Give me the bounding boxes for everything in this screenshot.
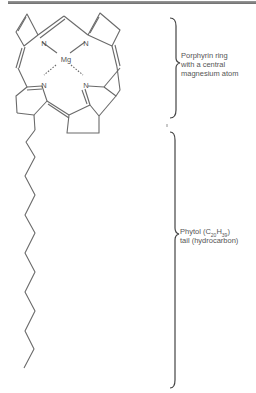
pyrrole-ring-bottom-left xyxy=(16,68,47,130)
pyrrole-ring-top-left xyxy=(16,14,38,68)
label-porphyrin-line2: with a central xyxy=(181,60,256,69)
atom-nitrogen-bottom-right: N xyxy=(83,81,88,90)
label-phytol-tail: Phytol (C20H39) tail (hydrocarbon) xyxy=(180,227,256,245)
atom-nitrogen-top-left: N xyxy=(41,39,46,48)
atom-nitrogen-bottom-left: N xyxy=(41,81,46,90)
label-porphyrin-ring: Porphyrin ring with a central magnesium … xyxy=(181,51,256,78)
pyrrole-ring-top-right xyxy=(88,13,120,67)
brace-phytol xyxy=(170,132,179,388)
label-porphyrin-line1: Porphyrin ring xyxy=(181,51,256,60)
label-porphyrin-line3: magnesium atom xyxy=(181,69,256,78)
brace-porphyrin xyxy=(170,18,180,118)
atom-nitrogen-top-right: N xyxy=(83,39,88,48)
label-phytol-line2: tail (hydrocarbon) xyxy=(180,236,256,245)
atom-magnesium: Mg xyxy=(61,55,71,64)
pyrrole-ring-bottom-right xyxy=(67,67,120,133)
label-phytol-line1: Phytol (C20H39) xyxy=(180,227,256,236)
phytol-tail-zigzag xyxy=(24,130,35,368)
